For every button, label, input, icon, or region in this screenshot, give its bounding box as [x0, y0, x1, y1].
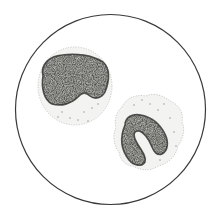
- monocyte-cell-upper-left: [38, 47, 112, 125]
- granule: [149, 103, 150, 104]
- granule: [77, 119, 78, 120]
- granule: [157, 109, 158, 110]
- granule: [57, 116, 58, 117]
- granule: [133, 104, 134, 105]
- granule: [141, 99, 142, 100]
- granule: [69, 117, 70, 118]
- granule: [159, 159, 160, 160]
- granule: [169, 117, 170, 118]
- granule: [173, 131, 174, 132]
- granule: [175, 145, 176, 146]
- granule: [87, 120, 88, 121]
- granule: [163, 103, 164, 104]
- granule: [61, 111, 62, 112]
- microscope-field-artwork: [0, 0, 213, 215]
- granule: [97, 103, 98, 104]
- granule: [83, 111, 84, 112]
- microscope-illustration: [0, 0, 213, 215]
- granule: [91, 107, 92, 108]
